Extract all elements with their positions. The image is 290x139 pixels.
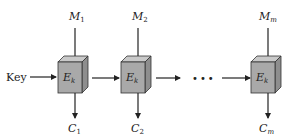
- key-label: Key: [6, 71, 27, 84]
- ellipsis: •••: [192, 73, 216, 84]
- input-label-1: M1: [68, 10, 85, 24]
- output-label-m: Cm: [259, 122, 274, 136]
- input-label-2: M2: [131, 10, 148, 24]
- ecb-diagram: Key M1 Ek C1 M2 Ek C2 ••• Mm Ek Cm: [0, 0, 290, 139]
- input-label-m: Mm: [258, 10, 277, 24]
- output-label-1: C1: [68, 122, 81, 136]
- output-label-2: C2: [131, 122, 144, 136]
